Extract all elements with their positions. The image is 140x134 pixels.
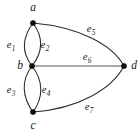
edge-label-e5: e5 <box>87 24 95 35</box>
vertex-label-d: d <box>131 60 137 72</box>
edge-e4 <box>32 66 41 112</box>
vertex-label-c: c <box>30 120 35 132</box>
edge-label-e2: e2 <box>41 40 49 51</box>
edge-label-e1: e1 <box>7 40 15 51</box>
vertex-b <box>29 63 34 68</box>
vertex-label-a: a <box>30 2 36 14</box>
edge-label-e6: e6 <box>83 52 91 63</box>
edge-e1 <box>24 23 33 66</box>
edge-label-e3: e3 <box>7 85 15 96</box>
vertex-label-b: b <box>17 60 23 72</box>
edge-e2 <box>32 23 41 66</box>
edge-label-e4: e4 <box>42 85 50 96</box>
vertex-d <box>121 63 126 68</box>
vertex-a <box>30 20 35 25</box>
vertex-c <box>30 109 35 114</box>
edge-label-e7: e7 <box>85 102 93 113</box>
edge-e3 <box>24 66 33 112</box>
edge-layer <box>24 23 124 112</box>
graph-figure: a b c d e1 e2 e3 e4 e5 e6 e7 <box>0 0 140 134</box>
vertex-layer <box>29 20 126 114</box>
